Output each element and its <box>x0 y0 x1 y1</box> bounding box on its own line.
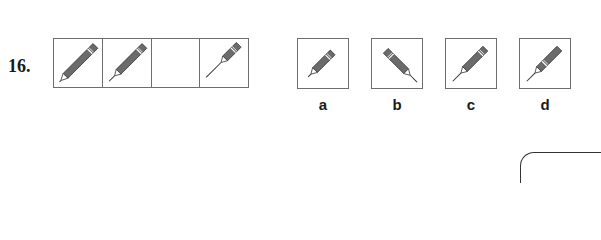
sequence-strip <box>53 38 249 88</box>
option-b-label: b <box>371 96 423 113</box>
pencil-icon <box>200 39 248 87</box>
option-b-box[interactable] <box>371 38 423 89</box>
option-c-label: c <box>445 96 497 113</box>
question-number: 16. <box>8 56 31 77</box>
sequence-cell-blank <box>152 39 201 87</box>
pencil-icon <box>103 39 151 87</box>
pencil-icon <box>54 39 102 87</box>
sequence-cell-2 <box>103 39 152 87</box>
option-a-label: a <box>297 96 349 113</box>
option-c-box[interactable] <box>445 38 497 89</box>
sequence-cell-1 <box>54 39 103 87</box>
option-d-label: d <box>519 96 571 113</box>
pencil-icon <box>372 39 422 88</box>
pencil-icon <box>520 39 570 88</box>
option-a-box[interactable] <box>297 38 349 89</box>
pencil-icon <box>446 39 496 88</box>
rounded-frame-corner <box>520 152 601 183</box>
pencil-icon <box>298 39 348 88</box>
sequence-cell-4 <box>200 39 248 87</box>
option-d-box[interactable] <box>519 38 571 89</box>
